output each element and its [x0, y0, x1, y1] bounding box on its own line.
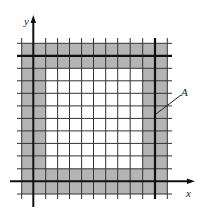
x-axis-arrow-icon: [187, 179, 195, 184]
grid-diagram: y x A: [0, 0, 205, 213]
y-axis-arrow-icon: [31, 15, 36, 23]
x-axis-label: x: [185, 187, 191, 199]
y-axis-label: y: [23, 15, 29, 27]
annotation-label-a: A: [180, 86, 188, 98]
